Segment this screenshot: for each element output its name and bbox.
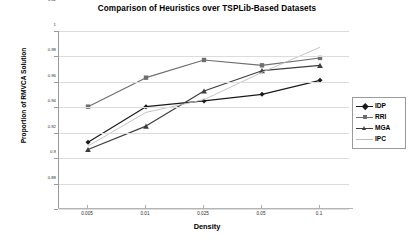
- y-axis-tick-label: 1: [26, 23, 56, 27]
- legend-item-idp[interactable]: IDP: [355, 101, 403, 112]
- data-point-marker: [260, 63, 264, 67]
- legend-label: RRI: [374, 114, 386, 121]
- gridline: [59, 107, 349, 108]
- y-axis-tick-label: 0.96: [26, 74, 56, 78]
- x-axis-tick-label: 0.01: [120, 211, 170, 216]
- data-point-marker: [86, 140, 91, 145]
- x-axis-tickmark: [145, 205, 146, 209]
- legend-item-ipc[interactable]: IPC: [355, 134, 403, 145]
- y-axis-tickmark: [54, 107, 58, 108]
- x-axis-tick-label: 0.05: [236, 211, 286, 216]
- legend-label: IPC: [374, 136, 386, 143]
- x-axis-tickmark: [261, 205, 262, 209]
- y-axis-tickmark: [54, 158, 58, 159]
- gridline: [59, 82, 349, 83]
- chart-title: Comparison of Heuristics over TSPLib-Bas…: [0, 4, 414, 13]
- legend-item-rri[interactable]: RRI: [355, 112, 403, 123]
- data-point-marker: [85, 147, 91, 152]
- y-axis-tick-label: 0.94: [26, 99, 56, 103]
- y-axis-tick-label: 0.98: [26, 48, 56, 52]
- gridline: [59, 158, 349, 159]
- legend-key-ipc-icon: [355, 135, 374, 144]
- gridline: [59, 184, 349, 185]
- y-axis-tick-labels: 0.880.90.920.940.960.9811.02: [22, 0, 56, 178]
- y-axis-tick-label: 0.92: [26, 125, 56, 129]
- chart-container: Comparison of Heuristics over TSPLib-Bas…: [0, 0, 414, 247]
- data-point-marker: [201, 88, 207, 93]
- y-axis-title: Proportion of RMVCA Solution: [20, 16, 27, 176]
- series-lines: [59, 31, 349, 209]
- x-axis-tickmark: [203, 205, 204, 209]
- y-axis-tick-label: 1.02: [26, 0, 56, 2]
- plot-area: [58, 31, 348, 209]
- y-axis-tickmark: [54, 133, 58, 134]
- y-axis-tickmark: [54, 184, 58, 185]
- legend-line-swatch: [356, 139, 373, 140]
- y-axis-tickmark: [54, 31, 58, 32]
- y-axis-tickmark: [54, 209, 58, 210]
- x-axis-tickmark: [87, 205, 88, 209]
- legend-marker-diamond-icon: [362, 103, 368, 109]
- gridline: [59, 31, 349, 32]
- legend-label: MGA: [374, 125, 390, 132]
- y-axis-tickmark: [54, 82, 58, 83]
- data-point-marker: [202, 58, 206, 62]
- x-axis-tick-label: 0.025: [178, 211, 228, 216]
- legend-label: IDP: [374, 103, 386, 110]
- legend-marker-triangle-icon: [362, 126, 366, 130]
- y-axis-tick-label: 0.9: [26, 150, 56, 154]
- gridline: [59, 56, 349, 57]
- legend-key-idp-icon: [355, 102, 374, 111]
- data-point-marker: [260, 92, 265, 97]
- x-axis-tick-label: 0.005: [62, 211, 112, 216]
- gridline: [59, 133, 349, 134]
- x-axis-tickmark: [319, 205, 320, 209]
- x-axis-line: [58, 208, 353, 209]
- series-idp: [86, 78, 323, 145]
- data-point-marker: [144, 75, 148, 79]
- y-axis-tick-label: 0.88: [26, 176, 56, 180]
- legend-item-mga[interactable]: MGA: [355, 123, 403, 134]
- legend: IDPRRIMGAIPC: [352, 97, 406, 149]
- gridline: [59, 209, 349, 210]
- x-axis-tick-label: 0.1: [294, 211, 344, 216]
- y-axis-tickmark: [54, 56, 58, 57]
- legend-key-mga-icon: [355, 124, 374, 133]
- legend-marker-square-icon: [363, 115, 368, 120]
- legend-key-rri-icon: [355, 113, 374, 122]
- x-axis-title: Density: [0, 222, 414, 231]
